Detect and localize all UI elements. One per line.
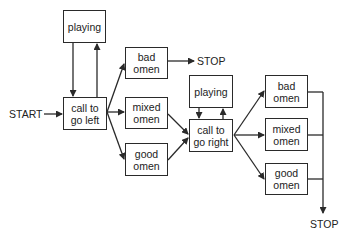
arrow-good-to-call-right [168,138,188,160]
mixed-omen-left-node: mixed omen [125,97,168,129]
arrow-call-right-to-good [234,135,264,179]
good-omen-left-node: good omen [125,143,168,176]
call-right-node: call to go right [189,119,233,152]
arrow-call-left-to-bad [107,64,124,112]
stop-bottom-label: STOP [310,218,338,230]
arrow-call-left-to-good [107,112,124,159]
connector-lines [0,0,344,232]
bad-omen-left-node: bad omen [125,47,168,79]
arrow-mixed-to-call-right [168,114,188,134]
playing-left-node: playing [63,10,106,43]
flowchart-diagram: START STOP STOP playing call to go left … [0,0,344,232]
arrow-call-right-to-bad [234,91,264,135]
call-left-node: call to go left [63,97,107,130]
playing-right-node: playing [189,75,233,108]
start-label: START [9,108,42,120]
mixed-omen-right-node: mixed omen [265,118,308,151]
bad-omen-right-node: bad omen [265,75,308,108]
stop-top-label: STOP [197,55,225,67]
good-omen-right-node: good omen [265,163,308,195]
